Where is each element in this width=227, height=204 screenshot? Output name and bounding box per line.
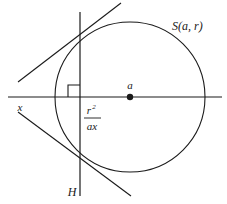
external-point-label: x xyxy=(17,101,23,113)
center-point-label: a xyxy=(127,79,133,91)
fraction-denominator-ax: ax xyxy=(87,120,98,132)
geometry-figure: S(a, r) a x H r 2 ax xyxy=(0,0,227,204)
geometry-canvas: S(a, r) a x H r 2 ax xyxy=(0,0,227,204)
sphere-label: S(a, r) xyxy=(172,19,203,33)
center-point-dot xyxy=(127,94,133,100)
distance-fraction-label: r 2 ax xyxy=(84,103,101,132)
tangent-line-upper xyxy=(18,3,121,82)
fraction-numerator-r: r xyxy=(87,104,92,116)
fraction-numerator-exponent: 2 xyxy=(92,103,96,111)
hyperplane-label: H xyxy=(67,185,78,199)
tangent-line-lower xyxy=(18,112,131,196)
right-angle-marker xyxy=(68,85,80,97)
